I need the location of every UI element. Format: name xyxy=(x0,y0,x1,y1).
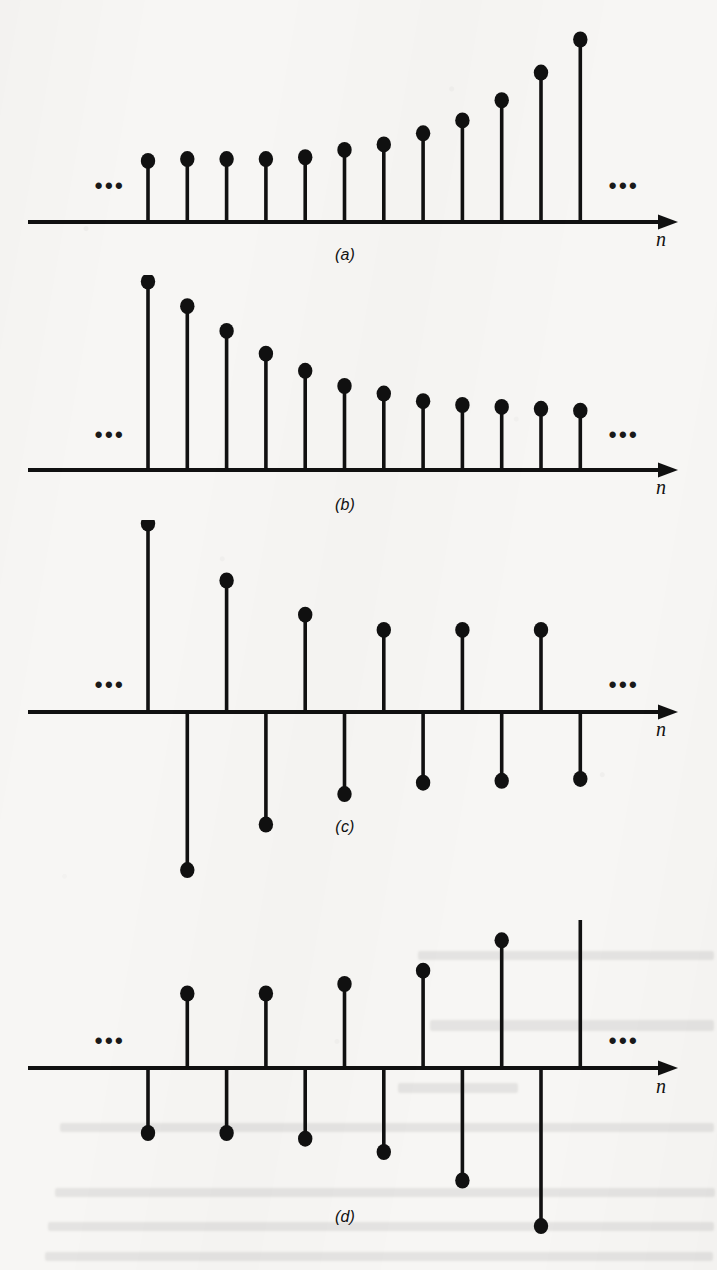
ellipsis-right-b: ••• xyxy=(609,424,640,446)
axis-label-n-d: n xyxy=(656,1075,666,1098)
panel-caption-c: (c) xyxy=(335,818,354,836)
stem-plot-panel-d: ••• ••• n (d) xyxy=(0,920,717,1270)
ellipsis-right-d: ••• xyxy=(609,1030,640,1052)
panel-caption-b: (b) xyxy=(335,496,355,514)
ellipsis-right-c: ••• xyxy=(609,674,640,696)
stem-plot-svg-d xyxy=(0,920,717,1270)
stem-plot-svg-c xyxy=(0,520,717,920)
ellipsis-left-d: ••• xyxy=(95,1030,126,1052)
stem-plot-panel-b: ••• ••• n (b) xyxy=(0,275,717,520)
axis-label-n-b: n xyxy=(656,476,666,499)
stem-plot-panel-c: ••• ••• n (c) xyxy=(0,520,717,920)
ellipsis-left-c: ••• xyxy=(95,674,126,696)
axis-label-n-c: n xyxy=(656,718,666,741)
ellipsis-right-a: ••• xyxy=(609,175,640,197)
stem-plot-panel-a: ••• ••• n (a) xyxy=(0,0,717,275)
ellipsis-left-a: ••• xyxy=(95,175,126,197)
ellipsis-left-b: ••• xyxy=(95,424,126,446)
panel-caption-a: (a) xyxy=(335,246,355,264)
axis-label-n-a: n xyxy=(656,228,666,251)
stem-plot-svg-b xyxy=(0,275,717,520)
panel-caption-d: (d) xyxy=(335,1208,355,1226)
stem-plot-svg-a xyxy=(0,0,717,275)
